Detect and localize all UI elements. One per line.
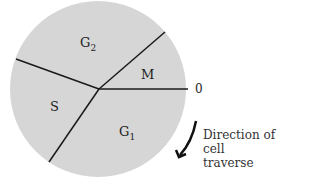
zero-label: 0 <box>195 83 203 95</box>
direction-line-2: cell traverse <box>203 142 277 170</box>
direction-note: Direction of cell traverse <box>203 128 277 170</box>
direction-arrow-icon <box>180 121 196 155</box>
phase-m-label: M <box>141 68 154 81</box>
phase-g2-label: G2 <box>80 36 96 53</box>
phase-s-label: S <box>50 100 59 113</box>
phase-g1-label: G1 <box>119 125 135 142</box>
direction-line-1: Direction of <box>203 128 277 142</box>
